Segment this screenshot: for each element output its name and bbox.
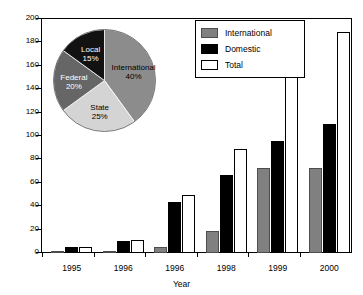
pie-slice-label: Local (81, 45, 100, 54)
bar-group (309, 19, 350, 253)
legend-item: International (201, 25, 299, 41)
pie-svg: International40%State25%Federal20%Local1… (52, 28, 157, 133)
bar-domestic-1996 (168, 202, 181, 253)
x-axis-tick-mark (145, 253, 146, 257)
pie-slice-percent: 40% (126, 72, 142, 81)
x-axis-tick-mark (197, 253, 198, 257)
x-axis-tick-label: 1996 (97, 264, 149, 273)
y-axis-tick-label: 140 (0, 84, 39, 92)
x-axis-title: Year (0, 279, 363, 289)
bar-international-1996 (154, 247, 167, 253)
x-axis-tick-mark (248, 253, 249, 257)
bar-domestic-1996 (117, 241, 130, 253)
chart-legend: InternationalDomesticTotal (195, 20, 305, 78)
chart-canvas: 020406080100120140160180200 199519961996… (0, 0, 363, 295)
pie-slice-percent: 25% (92, 112, 108, 121)
bar-domestic-1998 (220, 175, 233, 253)
bar-total-2000 (337, 32, 350, 253)
bar-domestic-1999 (271, 141, 284, 253)
legend-label: Total (225, 61, 243, 70)
bar-domestic-1995 (65, 247, 78, 253)
y-axis-tick-label: 160 (0, 61, 39, 69)
pie-slice-label: International (112, 63, 156, 72)
pie-slice-percent: 15% (83, 54, 99, 63)
bar-domestic-2000 (323, 124, 336, 253)
x-axis-tick-label: 1998 (200, 264, 252, 273)
y-axis-tick-label: 60 (0, 178, 39, 186)
bar-total-1996 (182, 195, 195, 254)
bar-international-2000 (309, 168, 322, 253)
x-axis-tick-label: 2000 (303, 264, 355, 273)
y-axis-tick-label: 40 (0, 201, 39, 209)
bar-international-1998 (206, 231, 219, 253)
y-axis-tick-label: 100 (0, 131, 39, 139)
y-axis-tick-label: 120 (0, 108, 39, 116)
legend-item: Domestic (201, 41, 299, 57)
x-axis-tick-mark (300, 253, 301, 257)
bar-total-1998 (234, 149, 247, 253)
y-axis-tick-label: 80 (0, 154, 39, 162)
bar-international-1999 (257, 168, 270, 253)
x-axis-tick-mark (94, 253, 95, 257)
x-axis-tick-label: 1995 (46, 264, 98, 273)
legend-swatch-total (201, 60, 218, 70)
x-axis-tick-label: 1996 (149, 264, 201, 273)
bar-total-1996 (131, 240, 144, 253)
legend-label: International (225, 29, 272, 38)
bar-total-1999 (285, 48, 298, 253)
pie-slice-label: State (90, 103, 109, 112)
pie-slice-label: Federal (60, 73, 87, 82)
legend-swatch-international (201, 28, 218, 38)
pie-chart-inset: International40%State25%Federal20%Local1… (52, 28, 157, 133)
legend-swatch-domestic (201, 44, 218, 54)
legend-item: Total (201, 57, 299, 73)
legend-label: Domestic (225, 45, 260, 54)
bar-group (154, 19, 195, 253)
y-axis-tick-label: 180 (0, 37, 39, 45)
y-axis-tick-label: 200 (0, 14, 39, 22)
pie-slice-percent: 20% (66, 82, 82, 91)
bar-total-1995 (79, 247, 92, 253)
x-axis-tick-mark (42, 253, 43, 257)
bar-international-1995 (51, 251, 64, 253)
bar-international-1996 (103, 251, 116, 253)
y-axis-tick-label: 20 (0, 225, 39, 233)
x-axis-tick-label: 1999 (252, 264, 304, 273)
y-axis-tick-label: 0 (0, 248, 39, 256)
